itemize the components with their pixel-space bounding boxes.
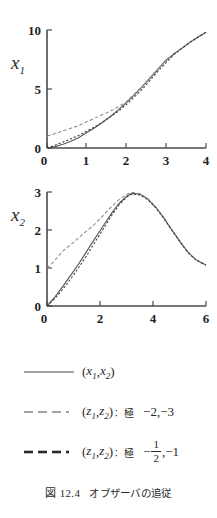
pole-values: −2,−3 xyxy=(134,404,174,420)
x-tick-label: 2 xyxy=(97,311,104,326)
x-tick-label: 1 xyxy=(83,153,90,168)
chart-x2: x2 3 2 1 0 0 2 4 6 xyxy=(0,178,217,346)
legend-label-x: (x1,x2) xyxy=(82,363,115,381)
chart-x1: x1 10 5 0 0 1 xyxy=(0,8,217,176)
legend-label-z-poles-half-1: (z1,z2)：極−12,−1 xyxy=(82,440,179,465)
legend: (x1,x2) (z1,z2)：極−2,−3 xyxy=(0,352,217,472)
pole-label: 極 xyxy=(124,445,134,460)
fraction-denominator: 2 xyxy=(151,451,161,464)
figure-container: x1 10 5 0 0 1 xyxy=(0,0,217,518)
legend-swatch-dashed-thin-icon xyxy=(24,406,82,418)
x-tick-label: 3 xyxy=(163,153,170,168)
x-tick-label: 6 xyxy=(203,311,210,326)
legend-swatch-dashed-thick-icon xyxy=(24,446,82,458)
x-tick-label: 2 xyxy=(123,153,130,168)
legend-swatch-solid-icon xyxy=(24,366,82,378)
x-tick-label: 0 xyxy=(41,153,48,168)
minus-sign: − xyxy=(143,444,150,460)
paren-close: ) xyxy=(110,364,114,380)
legend-row-x: (x1,x2) xyxy=(0,352,217,392)
fraction-numerator: 1 xyxy=(151,439,161,451)
series-line-z-poles-2-3 xyxy=(47,192,206,268)
legend-row-z-poles-half-1: (z1,z2)：極−12,−1 xyxy=(0,432,217,472)
series-line-z-poles-half-1 xyxy=(47,32,206,148)
pole-values-fraction: −12,−1 xyxy=(134,440,179,465)
figure-caption: 図 12.4オブザーバの追従 xyxy=(0,484,217,500)
colon-separator: ： xyxy=(113,446,124,459)
series-line-z-poles-half-1 xyxy=(47,194,206,306)
x-tick-label: 4 xyxy=(150,311,157,326)
colon-separator: ： xyxy=(113,406,124,419)
y-tick-label: 5 xyxy=(35,82,42,97)
fraction-one-half: 12 xyxy=(151,439,161,464)
caption-title: オブザーバの追従 xyxy=(89,487,171,499)
x-tick-label: 4 xyxy=(203,153,210,168)
second-pole-value: ,−1 xyxy=(162,444,179,460)
chart-x1-svg: 10 5 0 0 1 2 3 4 xyxy=(0,8,217,176)
legend-row-z-poles-2-3: (z1,z2)：極−2,−3 xyxy=(0,392,217,432)
series-line-x xyxy=(47,32,206,148)
y-tick-label: 3 xyxy=(35,185,42,200)
pole-label: 極 xyxy=(124,405,134,420)
caption-number: 図 12.4 xyxy=(45,487,80,499)
legend-label-z-poles-2-3: (z1,z2)：極−2,−3 xyxy=(82,403,174,421)
y-tick-label: 1 xyxy=(35,261,42,276)
chart-x2-svg: 3 2 1 0 0 2 4 6 xyxy=(0,178,217,346)
y-tick-label: 10 xyxy=(28,23,41,38)
x-tick-label: 0 xyxy=(41,311,48,326)
y-tick-label: 2 xyxy=(35,223,42,238)
series-line-x xyxy=(47,193,206,306)
